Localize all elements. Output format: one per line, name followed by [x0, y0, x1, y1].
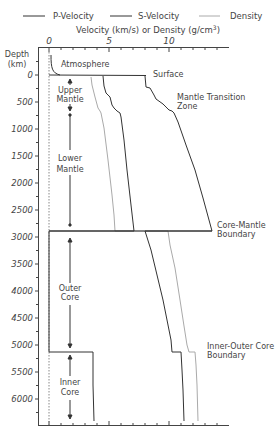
y-axis-title-line1: Depth: [5, 50, 29, 59]
label-icb-2: Boundary: [207, 351, 246, 360]
y-tick-label: 5000: [11, 340, 33, 350]
label-atmosphere: Atmosphere: [61, 60, 110, 69]
label-surface: Surface: [153, 70, 184, 79]
legend: P-Velocity S-Velocity Density: [23, 11, 262, 21]
label-cmb-1: Core-Mantle: [217, 221, 266, 230]
y-tick-label: 1500: [11, 151, 33, 161]
label-inner-core-2: Core: [61, 388, 80, 397]
label-cmb-2: Boundary: [217, 230, 256, 239]
y-tick-label: 5500: [11, 367, 33, 377]
y-tick-label: 0: [28, 70, 33, 80]
label-outer-core-1: Outer: [59, 284, 82, 293]
legend-label-density: Density: [230, 11, 262, 21]
surface-line: [49, 75, 146, 76]
y-axis-title-line2: (km): [8, 60, 27, 69]
label-outer-core-2: Core: [61, 293, 80, 302]
x-tick-labels: 0 5 10: [46, 36, 175, 46]
y-tick-label: 4500: [11, 313, 33, 323]
x-tick-label: 10: [163, 36, 175, 46]
x-axis-top: [38, 47, 229, 52]
label-transition-2: Zone: [177, 102, 197, 111]
y-tick-label: 2000: [11, 178, 33, 188]
atmosphere-curve: [51, 55, 60, 75]
y-tick-label: 3500: [11, 259, 33, 269]
y-tick-label: 6000: [11, 394, 33, 404]
y-tick-label: 1000: [11, 124, 33, 134]
label-inner-core-1: Inner: [60, 378, 81, 387]
legend-label-p-velocity: P-Velocity: [53, 11, 94, 21]
label-transition-1: Mantle Transition: [177, 93, 245, 102]
y-tick-label: 2500: [11, 205, 33, 215]
y-tick-label: 4000: [11, 286, 33, 296]
x-tick-label: 5: [106, 36, 112, 46]
label-icb-1: Inner-Outer Core: [207, 342, 274, 351]
earth-structure-chart: P-Velocity S-Velocity Density Velocity (…: [0, 0, 276, 438]
region-arrows: [68, 79, 72, 419]
x-tick-label: 0: [46, 36, 52, 46]
s-velocity-curve: [49, 76, 134, 421]
label-upper-mantle-1: Upper: [58, 86, 83, 95]
y-tick-labels: 0 500 1000 1500 2000 2500 3000 3500 4000…: [11, 70, 33, 404]
p-velocity-curve: [145, 76, 212, 421]
y-tick-label: 500: [17, 97, 33, 107]
y-axis: [35, 47, 39, 426]
x-axis-bottom: [38, 421, 229, 426]
y-tick-label: 3000: [11, 232, 33, 242]
label-upper-mantle-2: Mantle: [56, 95, 83, 104]
annotations: Atmosphere Surface Upper Mantle Mantle T…: [56, 60, 274, 397]
label-lower-mantle-1: Lower: [58, 154, 83, 163]
label-lower-mantle-2: Mantle: [56, 165, 83, 174]
x-axis-title: Velocity (km/s) or Density (g/cm3): [76, 24, 220, 35]
legend-label-s-velocity: S-Velocity: [138, 11, 179, 21]
